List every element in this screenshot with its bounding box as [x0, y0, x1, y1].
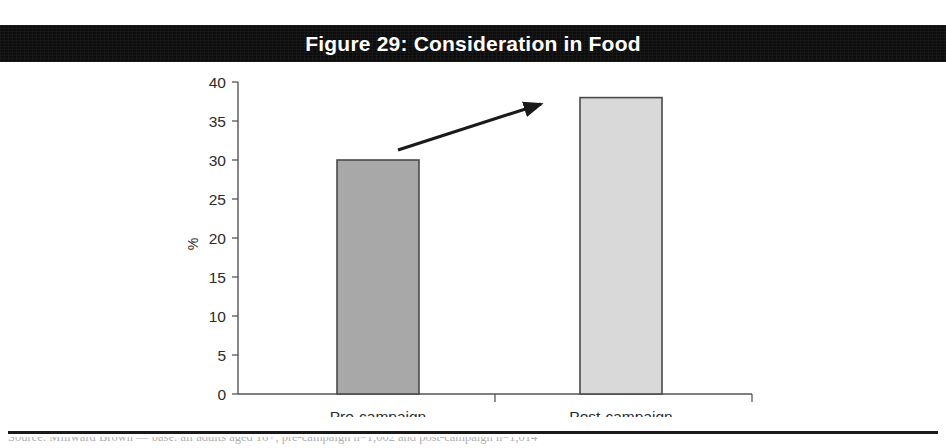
y-tick-label: 25: [209, 191, 226, 208]
y-tick-label: 0: [217, 386, 226, 403]
y-tick-label: 15: [209, 269, 226, 286]
footer-divider: [8, 431, 938, 434]
x-tick-label-post-campaign: Post-campaign: [569, 408, 672, 417]
y-tick-label: 30: [209, 152, 227, 169]
chart-canvas: 40 35 30 25 20 15 10 5 0 %: [0, 62, 946, 417]
y-axis-title: %: [185, 238, 201, 250]
y-tick-label: 35: [209, 113, 226, 130]
x-tick-label-pre-campaign: Pre-campaign: [330, 408, 427, 417]
upward-trend-arrow: [398, 104, 541, 150]
figure-page: Figure 29: Consideration in Food 40: [0, 0, 946, 448]
y-tick-label: 40: [209, 74, 227, 91]
page-title: Figure 29: Consideration in Food: [305, 32, 640, 56]
bar-post-campaign[interactable]: [580, 98, 662, 394]
figure-title-banner: Figure 29: Consideration in Food: [0, 25, 946, 62]
bar-chart: 40 35 30 25 20 15 10 5 0 %: [0, 62, 946, 417]
footer-cutoff-text-clip: Source: Millward Brown — base: all adult…: [8, 437, 938, 448]
bar-pre-campaign[interactable]: [337, 160, 419, 394]
y-axis-ticks: [232, 82, 238, 394]
footer-cutoff-text: Source: Millward Brown — base: all adult…: [8, 437, 938, 445]
y-tick-label: 10: [209, 308, 227, 325]
y-tick-label: 20: [209, 230, 227, 247]
x-axis-ticks: [495, 394, 752, 402]
y-tick-label: 5: [217, 347, 226, 364]
